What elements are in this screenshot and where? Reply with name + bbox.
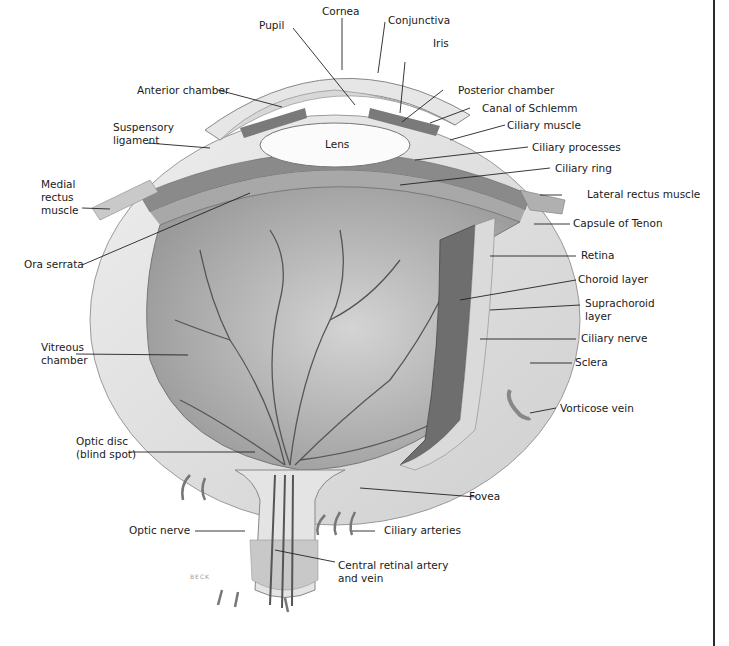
- label-suprachoroid-layer: Suprachoroid layer: [585, 297, 655, 323]
- label-vitreous-chamber: Vitreous chamber: [41, 341, 88, 367]
- artist-signature: BECK: [190, 573, 210, 580]
- label-optic-nerve: Optic nerve: [129, 524, 190, 537]
- label-anterior-chamber: Anterior chamber: [137, 84, 229, 97]
- label-sclera: Sclera: [575, 356, 608, 369]
- label-ora-serrata: Ora serrata: [24, 258, 84, 271]
- label-capsule-of-tenon: Capsule of Tenon: [573, 217, 663, 230]
- label-central-retinal-artery: Central retinal artery and vein: [338, 559, 448, 585]
- label-vorticose-vein: Vorticose vein: [560, 402, 634, 415]
- eye-illustration: [0, 0, 729, 646]
- label-fovea: Fovea: [469, 490, 500, 503]
- label-choroid-layer: Choroid layer: [578, 273, 648, 286]
- label-iris: Iris: [433, 37, 449, 50]
- label-medial-rectus-muscle: Medial rectus muscle: [41, 178, 79, 217]
- right-border-line: [713, 0, 715, 646]
- label-lateral-rectus-muscle: Lateral rectus muscle: [587, 188, 700, 201]
- label-ciliary-ring: Ciliary ring: [555, 162, 612, 175]
- label-suspensory-ligament: Suspensory ligament: [113, 121, 174, 147]
- label-ciliary-muscle: Ciliary muscle: [507, 119, 581, 132]
- label-conjunctiva: Conjunctiva: [388, 14, 450, 27]
- label-posterior-chamber: Posterior chamber: [458, 84, 554, 97]
- eye-anatomy-diagram: Cornea Conjunctiva Pupil Iris Anterior c…: [0, 0, 729, 646]
- label-cornea: Cornea: [322, 5, 359, 18]
- label-retina: Retina: [581, 249, 614, 262]
- label-pupil: Pupil: [259, 19, 284, 32]
- label-ciliary-nerve: Ciliary nerve: [581, 332, 648, 345]
- label-ciliary-processes: Ciliary processes: [532, 141, 621, 154]
- label-canal-of-schlemm: Canal of Schlemm: [482, 102, 578, 115]
- label-lens: Lens: [325, 138, 349, 151]
- label-ciliary-arteries: Ciliary arteries: [384, 524, 461, 537]
- label-optic-disc: Optic disc (blind spot): [76, 435, 136, 461]
